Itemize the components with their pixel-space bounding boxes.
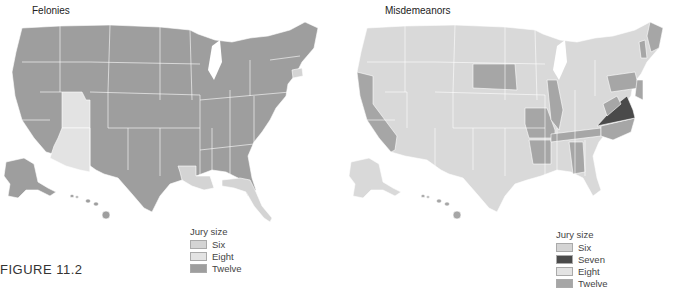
legend-item-six: Six [556,241,608,253]
legend-label: Eight [578,266,600,277]
legend-swatch-twelve [556,279,573,288]
legend-label: Twelve [212,263,242,274]
misdemeanors-legend: Jury size Six Seven Eight Twelve [556,229,608,289]
legend-item-twelve: Twelve [556,277,608,289]
misdemeanors-us-map [345,0,674,273]
legend-swatch-six [556,243,573,252]
legend-label: Six [578,242,591,253]
legend-item-eight: Eight [556,265,608,277]
legend-title: Jury size [556,229,608,240]
felonies-map-title: Felonies [32,5,70,16]
felonies-us-map [0,0,335,273]
legend-swatch-eight [190,252,207,261]
legend-swatch-eight [556,267,573,276]
felonies-panel: Felonies Jury size Six Eight Twelve [0,0,335,273]
misdemeanors-map-title: Misdemeanors [385,5,451,16]
legend-label: Eight [212,251,234,262]
legend-swatch-twelve [190,264,207,273]
legend-item-seven: Seven [556,253,608,265]
legend-item-eight: Eight [190,250,242,262]
legend-item-six: Six [190,238,242,250]
misdemeanors-panel: Misdemeanors Jury size Six Seven Eight T… [345,0,674,273]
legend-label: Seven [578,254,605,265]
legend-item-twelve: Twelve [190,262,242,274]
legend-label: Six [212,239,225,250]
legend-swatch-seven [556,255,573,264]
felonies-legend: Jury size Six Eight Twelve [190,226,242,274]
legend-title: Jury size [190,226,242,237]
figure-caption: FIGURE 11.2 [0,262,83,277]
legend-swatch-six [190,240,207,249]
legend-label: Twelve [578,278,608,289]
